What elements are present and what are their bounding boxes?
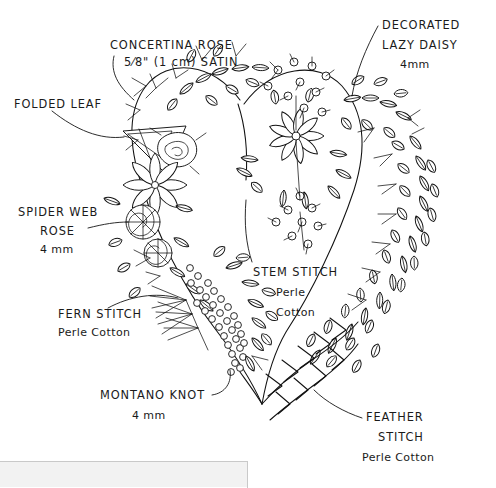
spider-web-rose-motif (103, 195, 193, 267)
leader-folded-leaf (52, 111, 124, 138)
leader-feather-stitch (314, 390, 362, 418)
label-lazy-daisy-line3: 4mm (400, 58, 430, 71)
feather-stitch-motif (240, 318, 358, 420)
label-stem-stitch-line2: Perle (276, 286, 305, 299)
label-feather-stitch-line1: FEATHER (366, 410, 424, 424)
label-concertina-rose-line1: CONCERTINA ROSE (110, 38, 233, 52)
leader-spider-web-rose (88, 222, 128, 228)
label-spider-web-rose-line3: 4 mm (40, 243, 74, 256)
label-montano-knot-line2: 4 mm (132, 409, 166, 422)
heart-wreath-group (103, 42, 441, 420)
label-spider-web-rose-line1: SPIDER WEB (18, 205, 98, 219)
right-upper-foliage (339, 73, 424, 139)
leader-lazy-daisy (352, 26, 378, 96)
label-feather-stitch-line2: STITCH (378, 430, 424, 444)
montano-knot-cluster (187, 265, 248, 376)
label-stem-stitch-line1: STEM STITCH (253, 265, 338, 279)
bottom-left-ui-panel[interactable] (0, 461, 248, 488)
label-stem-stitch-line3: Cotton (276, 306, 315, 319)
annotation-labels: CONCERTINA ROSE 5⁄8" (1 cm) SATIN FOLDED… (14, 18, 460, 465)
label-fern-stitch-line1: FERN STITCH (58, 307, 142, 321)
right-inner-branches (348, 128, 396, 310)
label-montano-knot-line1: MONTANO KNOT (100, 388, 205, 402)
right-side-foliage (304, 134, 440, 374)
label-lazy-daisy-line1: DECORATED (382, 18, 460, 32)
label-lazy-daisy-line2: LAZY DAISY (382, 38, 458, 52)
leader-stem-stitch (245, 200, 252, 262)
label-feather-stitch-line3: Perle Cotton (362, 451, 434, 464)
label-folded-leaf: FOLDED LEAF (14, 97, 102, 111)
knot-cluster-foliage (212, 244, 280, 372)
label-concertina-rose-line2: 5⁄8" (1 cm) SATIN (124, 55, 238, 69)
label-fern-stitch-line2: Perle Cotton (58, 326, 130, 339)
stem-stitch-lines (132, 68, 362, 404)
label-spider-web-rose-line2: ROSE (40, 224, 75, 238)
